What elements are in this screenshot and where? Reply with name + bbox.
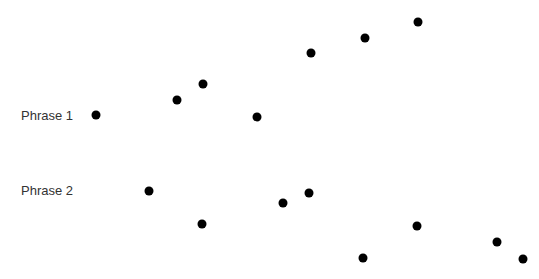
phrase-2-dot	[359, 254, 368, 263]
phrase-2-dot	[198, 220, 207, 229]
phrase-1-dot	[253, 113, 262, 122]
phrase-2-dot	[305, 189, 314, 198]
phrase-1-dot	[92, 111, 101, 120]
phrase-1-dot	[173, 96, 182, 105]
phrase-2-dot	[279, 199, 288, 208]
phrase-2-dot	[145, 187, 154, 196]
phrase-2-dot	[493, 238, 502, 247]
phrase-1-dot	[307, 49, 316, 58]
phrase-1-dot	[199, 80, 208, 89]
phrase-1-dot	[361, 34, 370, 43]
dot-plot	[0, 0, 539, 279]
phrase-2-dot	[519, 255, 528, 264]
phrase-2-dot	[413, 222, 422, 231]
phrase-1-dot	[414, 18, 423, 27]
